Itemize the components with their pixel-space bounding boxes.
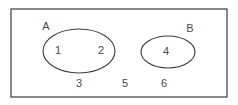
element-4: 4	[163, 45, 169, 57]
element-3: 3	[76, 77, 82, 89]
set-b-label: B	[186, 22, 193, 34]
element-1: 1	[55, 44, 61, 56]
venn-diagram-figure: A B 1 2 4 3 5 6	[0, 0, 238, 105]
element-2: 2	[98, 44, 104, 56]
element-6: 6	[161, 77, 167, 89]
set-a-label: A	[42, 20, 50, 32]
element-5: 5	[122, 77, 128, 89]
